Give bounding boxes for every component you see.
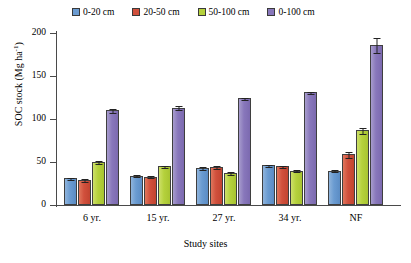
error-bar xyxy=(310,92,311,95)
bar-wrapper xyxy=(78,33,91,205)
error-bar xyxy=(202,167,203,170)
legend-swatch-0-20cm xyxy=(72,8,80,16)
chart-legend: 0-20 cm 20-50 cm 50-100 cm 0-100 cm xyxy=(72,4,402,20)
legend-swatch-0-100cm xyxy=(267,8,275,16)
bar-27yr-50-100cm[interactable] xyxy=(224,173,237,205)
error-bar xyxy=(296,170,297,173)
bar-wrapper xyxy=(276,33,289,205)
bar-wrapper xyxy=(370,33,383,205)
error-bar xyxy=(84,179,85,182)
bar-wrapper xyxy=(342,33,355,205)
error-bar xyxy=(230,172,231,175)
error-bar xyxy=(334,170,335,173)
bar-nf-20-50cm[interactable] xyxy=(342,154,355,205)
bar-wrapper xyxy=(328,33,341,205)
bar-27yr-0-20cm[interactable] xyxy=(196,168,209,205)
bar-group-15yr xyxy=(130,33,188,205)
legend-item-50-100cm: 50-100 cm xyxy=(198,7,250,17)
plot-area xyxy=(56,33,401,205)
bar-6yr-50-100cm[interactable] xyxy=(92,162,105,205)
bar-group-34yr xyxy=(262,33,320,205)
error-bar xyxy=(112,109,113,114)
legend-label-0-100cm: 0-100 cm xyxy=(278,7,314,17)
x-axis-tick-label-nf: NF xyxy=(321,212,391,223)
y-axis-title-main: SOC stock (Mg ha xyxy=(13,51,24,126)
bar-nf-0-100cm[interactable] xyxy=(370,45,383,205)
legend-swatch-50-100cm xyxy=(198,8,206,16)
legend-label-0-20cm: 0-20 cm xyxy=(83,7,114,17)
bar-nf-0-20cm[interactable] xyxy=(328,171,341,205)
x-axis-tick-label-15yr: 15 yr. xyxy=(123,212,193,223)
bar-wrapper xyxy=(144,33,157,205)
bar-wrapper xyxy=(106,33,119,205)
bar-wrapper xyxy=(130,33,143,205)
bar-wrapper xyxy=(64,33,77,205)
x-axis-title: Study sites xyxy=(0,238,411,249)
y-axis-tick-0 xyxy=(50,205,56,206)
legend-label-50-100cm: 50-100 cm xyxy=(209,7,250,17)
bar-group-nf xyxy=(328,33,386,205)
error-bar xyxy=(216,166,217,169)
y-axis-title-tail: ) xyxy=(13,42,24,45)
error-bar xyxy=(150,176,151,179)
bar-wrapper xyxy=(224,33,237,205)
bar-group-27yr xyxy=(196,33,254,205)
error-bar xyxy=(362,128,363,135)
error-bar xyxy=(348,152,349,159)
bar-6yr-0-20cm[interactable] xyxy=(64,178,77,205)
bar-34yr-0-100cm[interactable] xyxy=(304,92,317,205)
bar-27yr-20-50cm[interactable] xyxy=(210,167,223,205)
y-axis-title: SOC stock (Mg ha-1) xyxy=(12,14,24,154)
bar-34yr-0-20cm[interactable] xyxy=(262,165,275,205)
x-axis-tick-label-34yr: 34 yr. xyxy=(255,212,325,223)
legend-swatch-20-50cm xyxy=(132,8,140,16)
bar-wrapper xyxy=(172,33,185,205)
legend-item-0-20cm: 0-20 cm xyxy=(72,7,114,17)
error-bar xyxy=(70,178,71,181)
y-axis-tick-label-50: 50 xyxy=(14,156,46,166)
x-axis-tick-label-6yr: 6 yr. xyxy=(57,212,127,223)
bar-wrapper xyxy=(196,33,209,205)
bar-wrapper xyxy=(356,33,369,205)
y-axis-tick-label-0: 0 xyxy=(14,199,46,209)
bar-wrapper xyxy=(158,33,171,205)
error-bar xyxy=(98,161,99,164)
error-bar xyxy=(376,38,377,53)
bar-wrapper xyxy=(210,33,223,205)
bar-nf-50-100cm[interactable] xyxy=(356,130,369,205)
bar-15yr-20-50cm[interactable] xyxy=(144,177,157,205)
legend-label-20-50cm: 20-50 cm xyxy=(143,7,179,17)
bar-wrapper xyxy=(290,33,303,205)
bar-15yr-0-20cm[interactable] xyxy=(130,176,143,205)
chart-figure: 0-20 cm 20-50 cm 50-100 cm 0-100 cm 0501… xyxy=(0,0,411,263)
error-bar xyxy=(178,106,179,111)
bar-wrapper xyxy=(304,33,317,205)
bar-27yr-0-100cm[interactable] xyxy=(238,98,251,205)
bar-wrapper xyxy=(92,33,105,205)
x-axis-tick-label-27yr: 27 yr. xyxy=(189,212,259,223)
error-bar xyxy=(268,165,269,168)
bar-group-6yr xyxy=(64,33,122,205)
bar-wrapper xyxy=(238,33,251,205)
legend-item-0-100cm: 0-100 cm xyxy=(267,7,314,17)
error-bar xyxy=(244,98,245,101)
x-axis-line xyxy=(56,205,401,206)
bar-wrapper xyxy=(262,33,275,205)
error-bar xyxy=(282,166,283,169)
bar-6yr-20-50cm[interactable] xyxy=(78,180,91,205)
bar-34yr-50-100cm[interactable] xyxy=(290,171,303,205)
bar-6yr-0-100cm[interactable] xyxy=(106,110,119,205)
y-axis-title-exponent: -1 xyxy=(12,46,20,52)
bar-15yr-0-100cm[interactable] xyxy=(172,108,185,205)
bar-15yr-50-100cm[interactable] xyxy=(158,166,171,205)
error-bar xyxy=(164,166,165,169)
bar-34yr-20-50cm[interactable] xyxy=(276,166,289,205)
legend-item-20-50cm: 20-50 cm xyxy=(132,7,179,17)
error-bar xyxy=(136,175,137,178)
